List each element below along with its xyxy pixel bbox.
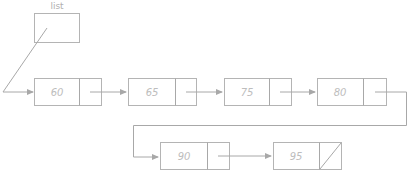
node-value: 95 xyxy=(290,151,303,162)
linked-list-diagram: list 60 65 75 80 90 9 xyxy=(0,0,411,177)
node-box xyxy=(274,143,342,170)
node-value: 90 xyxy=(178,151,191,162)
node-value: 80 xyxy=(334,87,347,98)
node-60: 60 xyxy=(35,79,127,106)
node-value: 75 xyxy=(241,87,254,98)
node-75: 75 xyxy=(225,79,316,106)
head-pointer-box xyxy=(35,14,80,43)
node-65: 65 xyxy=(129,79,223,106)
node-value: 60 xyxy=(51,87,64,98)
head-pointer-label: list xyxy=(50,1,64,11)
node-90: 90 xyxy=(161,143,272,170)
node-95: 95 xyxy=(274,143,342,170)
node-value: 65 xyxy=(146,87,159,98)
